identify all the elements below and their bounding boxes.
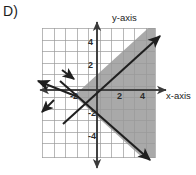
choice-letter-label: D)	[3, 4, 18, 18]
coordinate-plane-graph: y-axis x-axis -2 2 4 4 2 -2 -4	[0, 0, 196, 175]
y-axis-label: y-axis	[112, 12, 137, 23]
y-tick-neg2: -2	[88, 108, 96, 118]
multiple-choice-graph-figure: D)	[0, 0, 196, 175]
x-axis-label: x-axis	[166, 90, 191, 101]
x-tick-neg2: -2	[70, 91, 78, 101]
x-tick-4: 4	[140, 91, 145, 101]
y-tick-2: 2	[88, 60, 93, 70]
y-tick-4: 4	[88, 37, 93, 47]
y-tick-neg4: -4	[88, 131, 96, 141]
x-tick-2: 2	[117, 91, 122, 101]
